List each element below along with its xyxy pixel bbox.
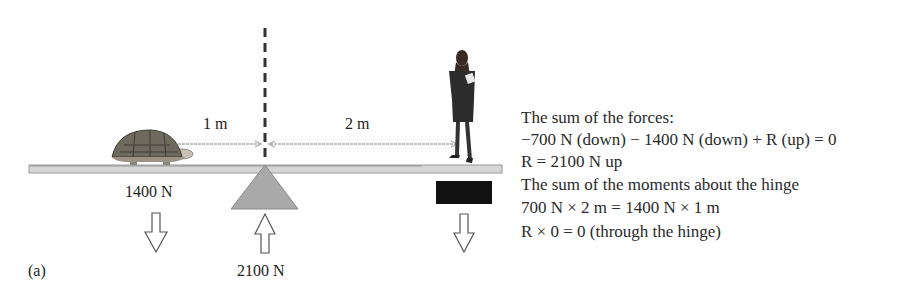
force-arrow-down-tortoise [145, 213, 167, 252]
pivot-force-label: 2100 N [237, 262, 285, 280]
explanation-line-3: R = 2100 N up [521, 151, 622, 173]
explanation-line-4: The sum of the moments about the hinge [521, 174, 799, 196]
explanation-line-6: R × 0 = 0 (through the hinge) [521, 221, 721, 243]
explanation-line-5: 700 N × 2 m = 1400 N × 1 m [521, 197, 720, 219]
seesaw-diagram [0, 0, 904, 303]
force-arrow-down-woman [454, 214, 474, 252]
distance-label-left: 1 m [203, 115, 227, 133]
distance-arrow-right [269, 141, 457, 147]
panel-label: (a) [28, 262, 46, 280]
distance-arrow-left [178, 141, 261, 147]
explanation-line-1: The sum of the forces: [521, 107, 674, 129]
tortoise-force-label: 1400 N [125, 183, 173, 201]
distance-label-right: 2 m [345, 115, 369, 133]
weight-block [436, 181, 492, 204]
tortoise-icon [112, 130, 193, 165]
force-arrow-up-pivot [255, 214, 275, 253]
explanation-line-2: −700 N (down) − 1400 N (down) + R (up) =… [521, 129, 837, 151]
